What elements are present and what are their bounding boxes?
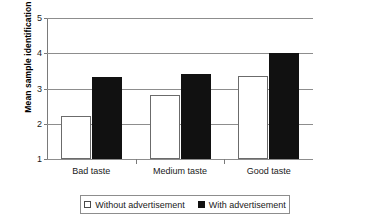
y-tick-label: 4 (37, 48, 42, 58)
category-label-good-taste: Good taste (247, 166, 291, 176)
y-tick-label: 3 (37, 84, 42, 94)
bar-good-taste-with-advertisement (269, 53, 299, 159)
bar-medium-taste-with-advertisement (181, 74, 211, 159)
y-axis-title: Mean sample identification (23, 0, 33, 137)
y-tick-mark (44, 124, 47, 125)
chart-legend: Without advertisement With advertisement (80, 195, 290, 214)
bar-bad-taste-with-advertisement (92, 77, 122, 159)
category-tick (224, 159, 225, 164)
category-tick (136, 159, 137, 164)
y-tick-label: 5 (37, 13, 42, 23)
y-tick-mark (44, 53, 47, 54)
category-label-medium-taste: Medium taste (153, 166, 207, 176)
bar-medium-taste-without-advertisement (150, 95, 180, 159)
legend-label: Without advertisement (95, 200, 185, 210)
category-label-bad-taste: Bad taste (72, 166, 110, 176)
bar-bad-taste-without-advertisement (61, 116, 91, 159)
y-tick-mark (44, 18, 47, 19)
gridline (47, 159, 313, 160)
legend-item-without-advertisement: Without advertisement (84, 200, 185, 210)
y-tick-mark (44, 89, 47, 90)
y-tick-mark (44, 159, 47, 160)
gridline (47, 18, 313, 19)
filled-square-icon (198, 201, 205, 208)
open-square-icon (84, 201, 91, 208)
y-tick-label: 1 (37, 154, 42, 164)
y-tick-label: 2 (37, 119, 42, 129)
bar-good-taste-without-advertisement (238, 76, 268, 159)
plot-area: 12345 Bad tasteMedium tasteGood taste (47, 18, 313, 160)
legend-label: With advertisement (209, 200, 286, 210)
legend-item-with-advertisement: With advertisement (198, 200, 286, 210)
bar-chart: Mean sample identification 12345 Bad tas… (0, 0, 366, 221)
